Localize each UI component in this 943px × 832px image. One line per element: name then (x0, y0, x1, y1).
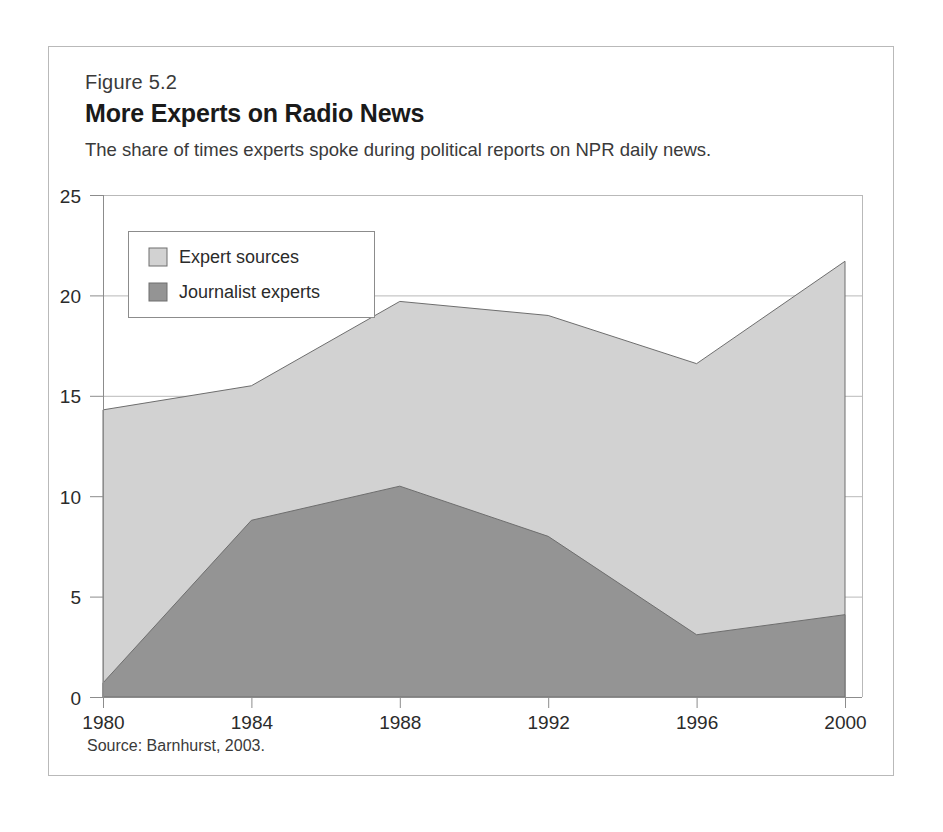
figure-source: Source: Barnhurst, 2003. (87, 737, 265, 755)
figure-panel: Figure 5.2 More Experts on Radio News Th… (48, 46, 894, 776)
figure-subtitle: The share of times experts spoke during … (85, 139, 711, 161)
figure-number: Figure 5.2 (85, 71, 177, 94)
figure-title: More Experts on Radio News (85, 99, 424, 128)
